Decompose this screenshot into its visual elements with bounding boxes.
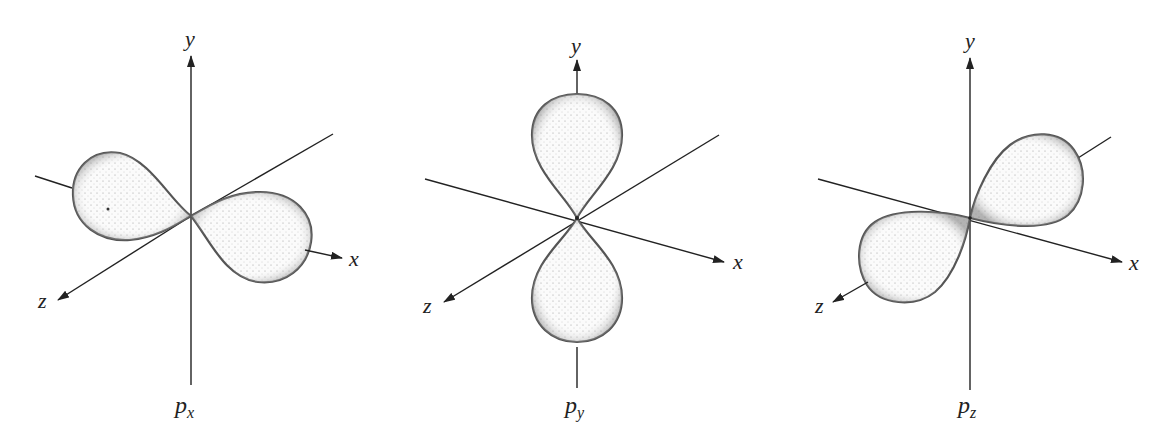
lobe-shading <box>532 218 622 342</box>
x-axis-negative-stub <box>35 176 72 188</box>
y-axis-label: y <box>569 33 581 58</box>
panel-py: y x z py <box>422 33 743 422</box>
y-axis-label: y <box>183 26 195 51</box>
z-axis-back-stub <box>1078 137 1111 158</box>
speck <box>107 208 110 211</box>
lobe-shading <box>859 212 970 303</box>
orbital-caption: pz <box>956 392 977 421</box>
x-axis-label: x <box>732 249 743 274</box>
lobe-shading <box>970 134 1083 226</box>
panel-pz: y x z pz <box>814 28 1139 421</box>
orbital-caption: py <box>563 392 585 422</box>
y-axis-label: y <box>963 28 975 53</box>
orbital-caption: px <box>173 392 194 421</box>
panel-px: y x z px <box>35 26 359 421</box>
z-axis-label: z <box>814 293 824 318</box>
x-axis-label: x <box>348 246 359 271</box>
p-orbitals-diagram: y x z px y x z py <box>0 0 1172 445</box>
origin <box>968 216 972 220</box>
x-axis-arrow <box>305 250 342 258</box>
x-axis-label: x <box>1128 250 1139 275</box>
z-axis-label: z <box>37 288 47 313</box>
z-axis-label: z <box>422 293 432 318</box>
origin <box>575 216 579 220</box>
lobe-shading <box>532 94 622 218</box>
z-axis-arrow <box>833 282 868 302</box>
